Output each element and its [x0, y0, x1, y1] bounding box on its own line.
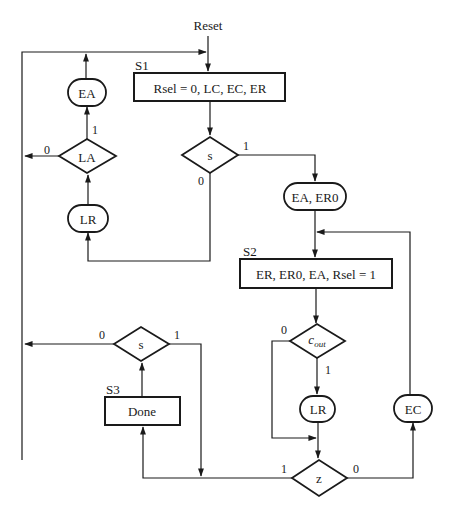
feedback-top-line: [22, 52, 206, 460]
decision-s-top-label: s: [207, 149, 212, 162]
decision-la-label: LA: [78, 151, 95, 164]
decision-z-label: z: [316, 472, 322, 485]
decision-la-true: 1: [92, 124, 98, 136]
state-s3-label: S3: [106, 383, 120, 396]
cout-subscript: out: [314, 339, 326, 349]
decision-cout-false: 0: [281, 324, 287, 336]
state-s3-action: Done: [128, 405, 156, 418]
output-lr-right-label: LR: [310, 403, 327, 416]
state-s1-action: Rsel = 0, LC, EC, ER: [154, 82, 267, 95]
state-s1-label: S1: [135, 59, 149, 72]
decision-s-bottom-true: 1: [174, 329, 180, 341]
state-s2-label: S2: [243, 245, 257, 258]
decision-cout-true: 1: [325, 364, 331, 376]
decision-z-true: 1: [281, 463, 287, 475]
output-lr-left-label: LR: [80, 213, 97, 226]
flowchart-canvas: [0, 0, 454, 517]
decision-z-false: 0: [353, 463, 359, 475]
decision-s-top-true: 1: [243, 140, 249, 152]
state-s2-action: ER, ER0, EA, Rsel = 1: [256, 268, 376, 281]
reset-label: Reset: [194, 19, 223, 32]
decision-s-bottom-false: 0: [99, 329, 105, 341]
decision-la-false: 0: [44, 144, 50, 156]
decision-cout-label: cout: [308, 333, 325, 349]
decision-s-bottom-label: s: [138, 338, 143, 351]
output-ea-er0-label: EA, ER0: [292, 191, 339, 204]
output-ea-left-label: EA: [78, 87, 95, 100]
output-ec-label: EC: [405, 403, 422, 416]
decision-s-top-false: 0: [198, 175, 204, 187]
